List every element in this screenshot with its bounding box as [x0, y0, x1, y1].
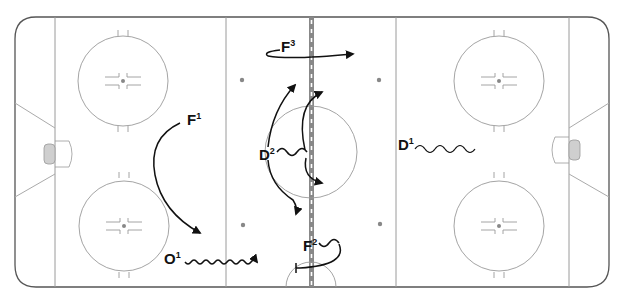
faceoff-dot: [122, 224, 126, 228]
trapezoid-line: [15, 174, 55, 197]
neutral-zone-dot: [240, 78, 244, 82]
goal-crease-left: [55, 141, 72, 167]
faceoff-dot: [497, 224, 501, 228]
path-F1: [154, 123, 200, 233]
path-D2-up-left: [268, 85, 295, 147]
trapezoid-line: [569, 174, 609, 197]
trapezoid-line: [15, 103, 55, 128]
player-label-D1: D1: [398, 136, 414, 153]
player-label-F3: F3: [281, 38, 295, 55]
path-O1-puck: [185, 260, 257, 264]
player-label-O1: O1: [164, 250, 181, 267]
path-D2-wave: [277, 149, 307, 156]
goal-net-right: [569, 140, 580, 160]
hockey-rink-diagram: F1 F3 D2 D1 F2 O1: [0, 0, 621, 300]
path-F2-wave: [319, 240, 339, 247]
player-label-F2: F2: [303, 237, 317, 254]
path-D1-wave: [415, 146, 475, 153]
faceoff-dot: [121, 79, 125, 83]
neutral-zone-dot: [377, 78, 381, 82]
faceoff-dot: [497, 79, 501, 83]
neutral-zone-dot: [378, 222, 382, 226]
trapezoid-line: [569, 103, 609, 128]
neutral-zone-dot: [241, 223, 245, 227]
player-label-F1: F1: [187, 111, 201, 128]
goal-crease-right: [552, 137, 569, 163]
path-D2-down-left: [268, 160, 297, 214]
player-label-D2: D2: [259, 146, 275, 163]
goal-net-left: [44, 144, 55, 164]
